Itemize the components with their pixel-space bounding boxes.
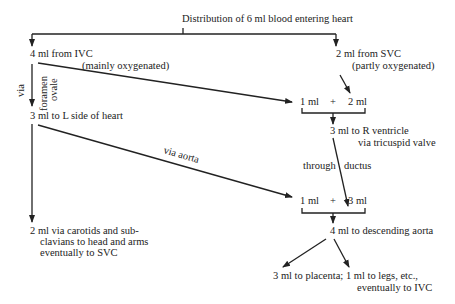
r-ventricle-label: 3 ml to R ventricle (330, 125, 409, 136)
head-arms-line1: 2 ml via carotids and sub- (30, 225, 139, 236)
ovale-label: ovale (48, 78, 59, 101)
sum1-svc-part: 2 ml (348, 96, 367, 107)
left-heart-label: 3 ml to L side of heart (30, 110, 123, 121)
svc-oxygenation-note: (partly oxygenated) (352, 60, 435, 72)
ivc-oxygenation-note: (mainly oxygenated) (82, 60, 170, 72)
ductus-label: ductus (344, 160, 371, 171)
eventually-ivc-label: eventually to IVC (357, 282, 432, 293)
placenta-legs-label: 3 ml to placenta; 1 ml to legs, etc., (273, 270, 418, 281)
head-arms-line2: clavians to head and arms (40, 236, 148, 247)
sum1-bracket (302, 108, 365, 124)
aorta-arrow (38, 125, 292, 197)
legs-arrow (334, 239, 349, 267)
placenta-arrow (283, 239, 326, 267)
sum2-ductus-part: 3 ml (348, 195, 367, 206)
blood-distribution-diagram: Distribution of 6 ml blood entering hear… (0, 0, 455, 304)
via-label: via (15, 84, 26, 97)
tricuspid-note: via tricuspid valve (358, 137, 436, 148)
top-split-connector (32, 28, 336, 46)
diagram-title: Distribution of 6 ml blood entering hear… (182, 13, 353, 24)
svc-down-arrow (340, 75, 350, 93)
svc-label: 2 ml from SVC (336, 48, 401, 59)
sum2-plus: + (330, 195, 336, 206)
through-label: through (303, 160, 336, 171)
sum2-left-part: 1 ml (300, 195, 319, 206)
sum1-plus: + (330, 96, 336, 107)
ivc-label: 4 ml from IVC (30, 48, 93, 59)
sum1-ivc-part: 1 ml (300, 96, 319, 107)
sum2-bracket (302, 208, 365, 223)
head-arms-line3: eventually to SVC (40, 247, 118, 258)
descending-aorta-label: 4 ml to descending aorta (330, 225, 434, 236)
